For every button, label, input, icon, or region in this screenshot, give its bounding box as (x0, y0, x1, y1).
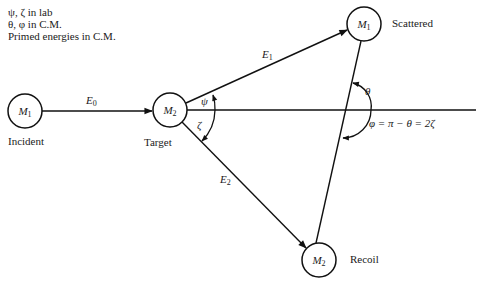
e1-label: E1 (261, 48, 273, 62)
e1-arrow (186, 30, 347, 103)
theta-label: θ (365, 85, 371, 97)
scattered-label: Scattered (392, 17, 433, 29)
target-label: Target (144, 136, 172, 148)
psi-arc (213, 95, 215, 110)
e0-label: E0 (85, 94, 97, 108)
psi-label: ψ (201, 95, 208, 107)
collision-diagram: M1 M2 M1 M2 Incident Target Scattered Re… (0, 0, 487, 283)
e2-label: E2 (219, 173, 231, 187)
zeta-arc (202, 110, 215, 141)
scattered-recoil-line (316, 41, 361, 243)
phi-relation-label: φ = π − θ = 2ζ (369, 117, 436, 130)
phi-arc (343, 110, 371, 138)
zeta-label: ζ (197, 119, 203, 132)
incident-label: Incident (8, 135, 44, 147)
e2-arrow (182, 122, 306, 248)
recoil-label: Recoil (350, 253, 379, 265)
